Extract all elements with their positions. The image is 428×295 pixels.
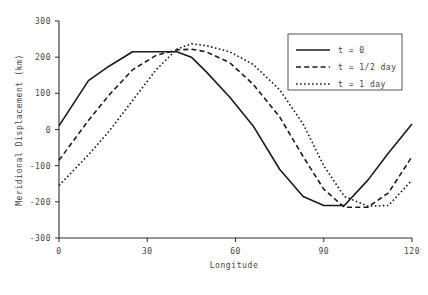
y-tick-group: 3002001000-100-200-300 — [30, 17, 59, 243]
y-axis-title: Meridional Displacement (km) — [15, 54, 24, 206]
y-tick-label: 300 — [35, 17, 51, 26]
x-tick-group: 0306090120 — [56, 238, 420, 256]
x-axis: 0306090120 — [56, 238, 420, 256]
y-tick-label: -100 — [30, 162, 51, 171]
y-tick-label: 200 — [35, 53, 51, 62]
y-axis: 3002001000-100-200-300 — [30, 17, 59, 243]
x-tick-label: 120 — [404, 247, 420, 256]
legend-label: t = 0 — [338, 46, 365, 55]
x-tick-label: 0 — [56, 247, 61, 256]
y-tick-label: 0 — [46, 126, 51, 135]
y-tick-label: -200 — [30, 198, 51, 207]
chart-figure: 3002001000-100-200-300 0306090120 Longit… — [0, 0, 428, 295]
plot-canvas: 3002001000-100-200-300 0306090120 Longit… — [0, 0, 428, 295]
x-tick-label: 30 — [142, 247, 153, 256]
y-tick-label: 100 — [35, 89, 51, 98]
legend-label: t = 1 day — [338, 80, 386, 89]
y-tick-label: -300 — [30, 234, 51, 243]
legend: t = 0t = 1/2 dayt = 1 day — [288, 34, 402, 90]
x-tick-label: 90 — [318, 247, 329, 256]
x-tick-label: 60 — [230, 247, 241, 256]
x-axis-title: Longitude — [210, 261, 259, 270]
legend-label: t = 1/2 day — [338, 63, 396, 72]
